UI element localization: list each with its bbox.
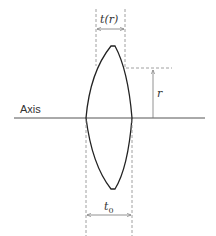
radius-label: r xyxy=(157,88,162,99)
axis-label: Axis xyxy=(20,104,41,115)
center-thickness-label: t0 xyxy=(104,201,114,215)
thickness-at-r-label: t(r) xyxy=(100,14,118,25)
center-thickness-text: t0 xyxy=(104,200,114,213)
